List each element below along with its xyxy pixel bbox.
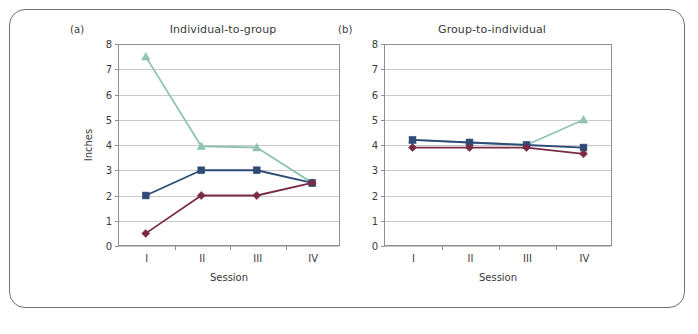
x-tick-label-III: III: [253, 253, 262, 264]
gridline-y-2: [119, 196, 339, 197]
chart-panel-a: (a) Individual-to-group 012345678IIIIIII…: [60, 18, 350, 280]
y-tick-label-4: 4: [372, 140, 385, 151]
gridline-y-3: [385, 170, 611, 171]
x-tick-mark-1: [442, 245, 443, 250]
gridline-y-7: [385, 69, 611, 70]
y-tick-label-1: 1: [372, 215, 385, 226]
y-tick-label-4: 4: [106, 140, 119, 151]
x-tick-label-II: II: [468, 253, 474, 264]
gridline-y-6: [119, 95, 339, 96]
gridline-y-2: [385, 196, 611, 197]
x-tick-mark-2: [499, 245, 500, 250]
gridline-y-1: [119, 221, 339, 222]
x-tick-mark-3: [286, 245, 287, 250]
x-tick-label-III: III: [523, 253, 532, 264]
y-tick-label-7: 7: [106, 64, 119, 75]
x-tick-label-II: II: [199, 253, 205, 264]
gridline-y-4: [385, 145, 611, 146]
gridline-y-6: [385, 95, 611, 96]
x-tick-label-I: I: [412, 253, 415, 264]
x-tick-label-IV: IV: [308, 253, 318, 264]
panel-a-x-axis-label: Session: [118, 272, 340, 283]
x-tick-mark-3: [556, 245, 557, 250]
panel-b-axes: 012345678IIIIIIIV: [384, 44, 612, 246]
panel-a-y-axis-label: Inches: [83, 129, 94, 162]
panel-a-axes: 012345678IIIIIIIV: [118, 44, 340, 246]
y-tick-label-5: 5: [106, 114, 119, 125]
y-tick-label-2: 2: [106, 190, 119, 201]
y-tick-label-2: 2: [372, 190, 385, 201]
y-tick-label-6: 6: [106, 89, 119, 100]
x-tick-label-I: I: [145, 253, 148, 264]
gridline-y-8: [385, 44, 611, 45]
y-tick-label-5: 5: [372, 114, 385, 125]
panel-b-title: Group-to-individual: [332, 23, 622, 36]
y-tick-label-0: 0: [372, 241, 385, 252]
y-tick-label-3: 3: [372, 165, 385, 176]
y-tick-label-6: 6: [372, 89, 385, 100]
x-tick-mark-1: [175, 245, 176, 250]
panel-b-x-axis-label: Session: [384, 272, 612, 283]
gridline-y-5: [119, 120, 339, 121]
gridline-y-4: [119, 145, 339, 146]
gridline-y-0: [119, 246, 339, 247]
gridline-y-8: [119, 44, 339, 45]
gridline-y-1: [385, 221, 611, 222]
y-tick-label-7: 7: [372, 64, 385, 75]
gridline-y-3: [119, 170, 339, 171]
x-tick-mark-2: [230, 245, 231, 250]
y-tick-label-0: 0: [106, 241, 119, 252]
panel-a-plot-area: 012345678IIIIIIIV Inches Session: [118, 44, 340, 246]
y-tick-label-8: 8: [372, 39, 385, 50]
panel-a-title: Individual-to-group: [60, 23, 350, 36]
gridline-y-5: [385, 120, 611, 121]
chart-panel-b: (b) Group-to-individual 012345678IIIIIII…: [332, 18, 622, 280]
panel-b-plot-area: 012345678IIIIIIIV Session: [384, 44, 612, 246]
y-tick-label-1: 1: [106, 215, 119, 226]
gridline-y-0: [385, 246, 611, 247]
x-tick-label-IV: IV: [580, 253, 590, 264]
y-tick-label-3: 3: [106, 165, 119, 176]
y-tick-label-8: 8: [106, 39, 119, 50]
gridline-y-7: [119, 69, 339, 70]
figure-page: (a) Individual-to-group 012345678IIIIIII…: [0, 0, 698, 334]
